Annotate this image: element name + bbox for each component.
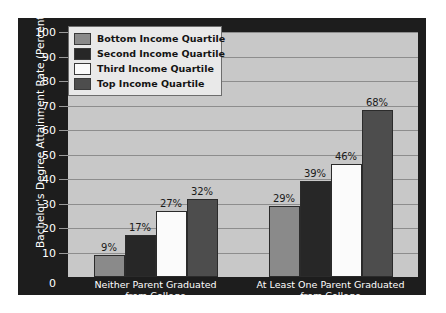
legend-swatch-icon [74, 78, 91, 90]
x-axis-label-line: At Least One Parent Graduated [243, 279, 418, 290]
y-axis-tick-mark [59, 179, 68, 180]
y-axis: Bachelor's Degree Attainment Rate (Perce… [18, 18, 68, 277]
bar-column: 39% [300, 32, 331, 277]
bar-value-label: 17% [129, 222, 151, 233]
y-axis-tick-mark [59, 130, 68, 131]
chart-figure: Bachelor's Degree Attainment Rate (Perce… [18, 18, 426, 295]
bar-value-label: 68% [366, 97, 388, 108]
bar-value-label: 39% [304, 168, 326, 179]
bar[interactable] [125, 235, 156, 277]
y-axis-tick-label: 30 [42, 197, 56, 210]
x-axis-category-label: At Least One Parent Graduatedfrom Colleg… [243, 279, 418, 301]
y-axis-tick-label: 20 [42, 222, 56, 235]
y-axis-tick-mark [59, 228, 68, 229]
legend-label: Top Income Quartile [97, 78, 204, 89]
y-axis-tick-label: 80 [42, 75, 56, 88]
y-axis-tick-mark [59, 57, 68, 58]
bar-column: 46% [331, 32, 362, 277]
bar[interactable] [269, 206, 300, 277]
y-axis-tick-mark [59, 253, 68, 254]
bar-column: 68% [362, 32, 393, 277]
bar[interactable] [362, 110, 393, 277]
bar[interactable] [300, 181, 331, 277]
chart-legend: Bottom Income QuartileSecond Income Quar… [68, 26, 222, 96]
x-axis-labels: Neither Parent Graduatedfrom CollegeAt L… [68, 279, 418, 301]
x-axis-label-line: from College [68, 290, 243, 301]
legend-swatch-icon [74, 63, 91, 75]
bar[interactable] [94, 255, 125, 277]
y-axis-tick-mark [59, 81, 68, 82]
y-axis-tick-mark [59, 32, 68, 33]
y-axis-tick-mark [59, 204, 68, 205]
bar-value-label: 27% [160, 198, 182, 209]
legend-item[interactable]: Third Income Quartile [74, 61, 216, 76]
x-axis-label-line: Neither Parent Graduated [68, 279, 243, 290]
y-axis-tick-label: 100 [35, 26, 56, 39]
legend-label: Second Income Quartile [97, 48, 225, 59]
legend-label: Third Income Quartile [97, 63, 214, 74]
y-axis-tick-label: 90 [42, 50, 56, 63]
y-axis-tick-label: 60 [42, 124, 56, 137]
x-axis-label-line: from College [243, 290, 418, 301]
bar[interactable] [187, 199, 218, 277]
legend-item[interactable]: Second Income Quartile [74, 46, 216, 61]
legend-swatch-icon [74, 33, 91, 45]
y-axis-tick-label: 10 [42, 246, 56, 259]
y-axis-zero-label: 0 [18, 277, 68, 290]
bar-value-label: 32% [191, 186, 213, 197]
bar[interactable] [331, 164, 362, 277]
legend-swatch-icon [74, 48, 91, 60]
x-axis-category-label: Neither Parent Graduatedfrom College [68, 279, 243, 301]
y-axis-tick-label: 40 [42, 173, 56, 186]
bar-value-label: 9% [101, 242, 117, 253]
y-axis-tick-mark [59, 155, 68, 156]
y-axis-tick-label: 50 [42, 148, 56, 161]
legend-label: Bottom Income Quartile [97, 33, 225, 44]
y-axis-tick-mark [59, 106, 68, 107]
bar-group: 29%39%46%68% [269, 32, 393, 277]
bar-column: 29% [269, 32, 300, 277]
y-axis-tick-label: 70 [42, 99, 56, 112]
legend-item[interactable]: Top Income Quartile [74, 76, 216, 91]
bar-value-label: 46% [335, 151, 357, 162]
legend-item[interactable]: Bottom Income Quartile [74, 31, 216, 46]
bar-value-label: 29% [273, 193, 295, 204]
bar[interactable] [156, 211, 187, 277]
